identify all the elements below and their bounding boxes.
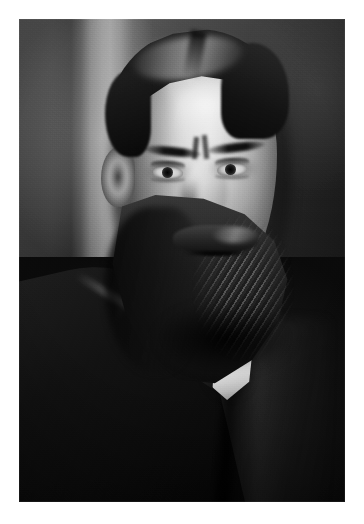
hair-left-temple xyxy=(105,71,151,157)
left-ear-inner-shadow xyxy=(109,159,127,195)
mouth-line xyxy=(183,251,249,256)
portrait-photograph xyxy=(19,19,345,502)
head xyxy=(95,27,291,327)
page-canvas xyxy=(0,0,364,524)
under-eye-left xyxy=(151,177,185,182)
neck-shadow xyxy=(155,303,295,373)
moustache-highlight xyxy=(213,227,257,243)
